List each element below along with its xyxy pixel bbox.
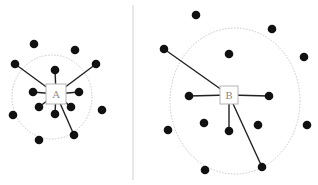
panel-b: B [160, 11, 312, 175]
data-point [225, 127, 234, 136]
data-point [225, 50, 234, 59]
data-point [268, 25, 277, 34]
data-point [92, 60, 101, 69]
query-label-b: B [225, 90, 232, 101]
data-point [300, 53, 309, 62]
data-point [98, 106, 107, 115]
diagram-canvas: A B [0, 0, 318, 185]
data-point [75, 88, 84, 97]
edge [229, 95, 262, 167]
data-point [67, 103, 76, 112]
data-point [9, 111, 18, 120]
data-point [185, 92, 194, 101]
data-point [192, 11, 201, 20]
data-point [160, 45, 169, 54]
data-point [71, 46, 80, 55]
data-point [35, 136, 44, 145]
data-point [35, 103, 44, 112]
data-point [29, 88, 38, 97]
data-point [265, 92, 274, 101]
edge [164, 49, 229, 95]
data-point [201, 166, 210, 175]
data-point [254, 121, 263, 130]
data-point [258, 163, 267, 172]
data-point [200, 119, 209, 128]
data-point [51, 110, 60, 119]
data-point [164, 126, 173, 135]
data-point [30, 40, 39, 49]
panel-a: A [9, 40, 107, 145]
edges-b [164, 49, 269, 167]
data-point [51, 66, 60, 75]
data-point [11, 60, 20, 69]
query-label-a: A [51, 89, 60, 100]
data-point [70, 131, 79, 140]
data-point [303, 121, 312, 130]
